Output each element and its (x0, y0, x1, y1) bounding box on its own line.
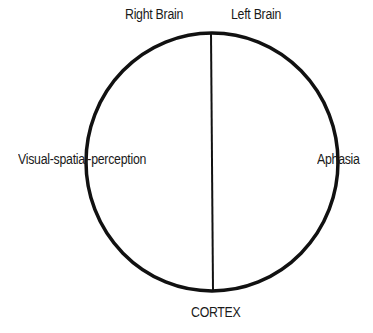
visual-spatial-perception-label: Visual-spatial-perception (18, 151, 146, 167)
aphasia-label: Aphasia (317, 151, 360, 167)
hemisphere-divider-line (211, 33, 213, 291)
cortex-label: CORTEX (191, 304, 241, 320)
right-brain-label: Right Brain (125, 6, 183, 22)
left-brain-label: Left Brain (231, 6, 281, 22)
